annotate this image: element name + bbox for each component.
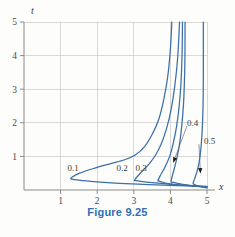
x-tick-label-2: 2 <box>95 196 100 206</box>
x-tick-label-1: 1 <box>58 196 63 206</box>
curve-label-0-4: 0.4 <box>187 118 199 128</box>
figure-caption: Figure 9.25 <box>0 206 235 218</box>
curve-label-0-1: 0.1 <box>67 163 78 173</box>
y-tick-label-5: 5 <box>12 17 17 27</box>
y-axis-label: t <box>31 5 34 16</box>
x-tick-label-5: 5 <box>205 196 210 206</box>
y-tick-label-2: 2 <box>12 118 17 128</box>
y-tick-label-1: 1 <box>12 152 17 162</box>
y-tick-label-4: 4 <box>12 51 17 61</box>
figure-container: 1 2 3 4 5 1 2 3 4 5 t x 0.1 0.2 0.3 <box>0 0 235 237</box>
plot-svg: 1 2 3 4 5 1 2 3 4 5 t x 0.1 0.2 0.3 <box>0 0 235 237</box>
curve-0-4 <box>171 22 207 187</box>
curve-0-1 <box>71 22 207 186</box>
leader-arrowhead-0-5 <box>198 168 202 173</box>
curve-label-0-2: 0.2 <box>116 163 127 173</box>
grid-horizontal <box>24 22 207 156</box>
x-tick-label-3: 3 <box>131 196 136 206</box>
x-axis-label: x <box>218 181 224 192</box>
y-tick-label-3: 3 <box>12 85 17 95</box>
curve-label-0-5: 0.5 <box>204 136 216 146</box>
x-tick-label-4: 4 <box>168 196 173 206</box>
x-axis-ticks: 1 2 3 4 5 <box>58 190 209 206</box>
y-axis-ticks: 1 2 3 4 5 <box>12 17 24 161</box>
curve-label-0-3: 0.3 <box>135 163 147 173</box>
